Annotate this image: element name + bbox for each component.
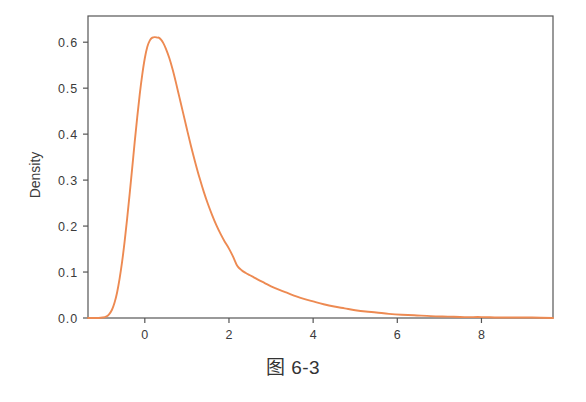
y-tick-label: 0.1 bbox=[58, 266, 78, 280]
x-tick-label: 6 bbox=[394, 328, 401, 342]
figure-container: 0.00.10.20.30.40.50.6 02468 Density 图 6-… bbox=[0, 0, 586, 402]
figure-caption: 图 6-3 bbox=[0, 352, 586, 379]
y-tick-label: 0.4 bbox=[58, 128, 78, 142]
density-plot: 0.00.10.20.30.40.50.6 02468 Density bbox=[0, 0, 586, 402]
x-tick-label: 2 bbox=[225, 328, 232, 342]
y-tick-label: 0.6 bbox=[58, 36, 78, 50]
plot-area-frame bbox=[88, 16, 553, 318]
y-tick-label: 0.3 bbox=[58, 174, 78, 188]
y-tick-label: 0.5 bbox=[58, 82, 78, 96]
x-tick-label: 0 bbox=[141, 328, 148, 342]
y-tick-label: 0.0 bbox=[58, 312, 78, 326]
y-axis-title: Density bbox=[27, 152, 43, 199]
y-tick-label: 0.2 bbox=[58, 220, 78, 234]
x-tick-label: 4 bbox=[310, 328, 317, 342]
x-tick-label: 8 bbox=[478, 328, 485, 342]
